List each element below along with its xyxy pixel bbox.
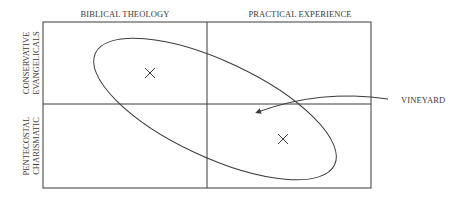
row-label-line: CHARISMATIC <box>31 117 41 176</box>
row-label-line: CONSERVATIVE <box>21 31 31 95</box>
column-label-biblical-theology: BIBLICAL THEOLOGY <box>81 9 170 19</box>
row-label-pentecostal-charismatic: PENTECOSTAL CHARISMATIC <box>21 117 41 176</box>
callout-label-vineyard: VINEYARD <box>401 95 445 105</box>
diagram-graphics <box>0 0 459 203</box>
x-marker-bottom-right <box>278 134 288 144</box>
row-label-line: EVANGELICALS <box>31 31 41 95</box>
overlap-ellipse <box>75 10 355 203</box>
column-label-practical-experience: PRACTICAL EXPERIENCE <box>249 9 352 19</box>
row-label-line: PENTECOSTAL <box>21 117 31 176</box>
x-marker-top-left <box>145 68 155 78</box>
row-label-conservative-evangelicals: CONSERVATIVE EVANGELICALS <box>21 31 41 95</box>
